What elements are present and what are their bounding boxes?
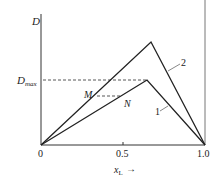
tick-label-0.5: 0.5 [116,148,129,159]
y-axis-label: D [31,15,40,27]
tick-label-0: 0 [38,148,43,159]
curve-2-leader [168,64,180,71]
diagram-canvas: D Dmax M N 2 1 0 0.5 1.0 xL → [0,0,219,185]
curve-1 [41,80,205,145]
dmax-label: Dmax [16,74,38,88]
curve-1-label: 1 [155,106,160,117]
curve-2-label: 2 [181,57,186,68]
tick-label-1.0: 1.0 [197,148,210,159]
curve-1-leader [160,106,168,111]
x-axis-label: xL [113,164,123,177]
point-n-label: N [123,98,132,109]
x-axis-arrow-icon: → [126,163,136,174]
point-m-label: M [83,89,93,100]
